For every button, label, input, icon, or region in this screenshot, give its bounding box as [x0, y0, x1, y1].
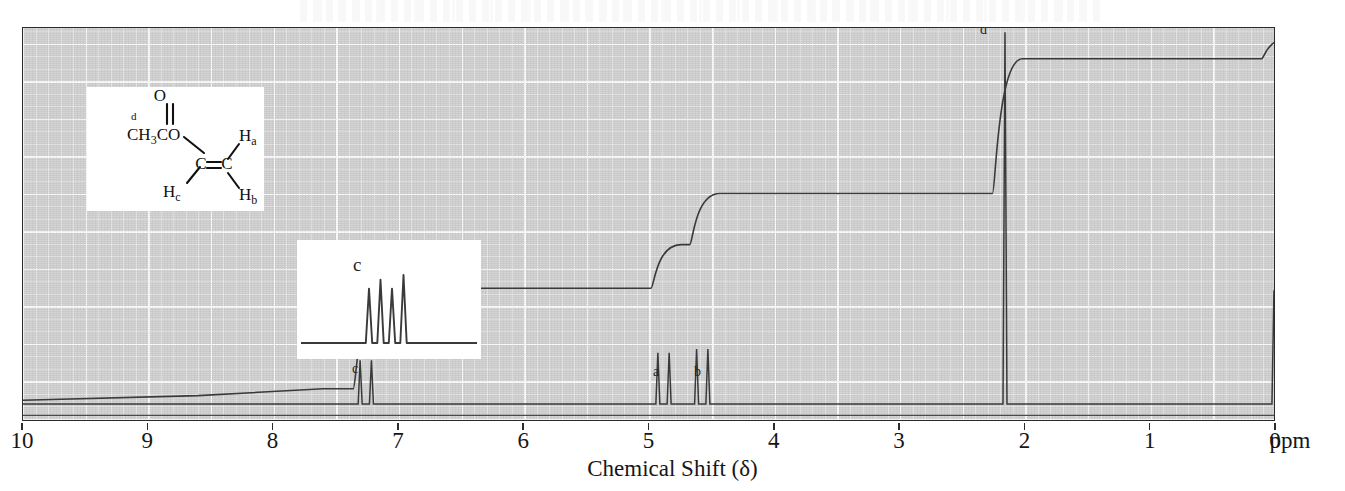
atom-hydrogen-c: Hc	[163, 182, 181, 204]
axis-tick-label-4: 4	[768, 429, 780, 452]
axis-tick-label-3: 3	[893, 429, 905, 452]
peak-label-d: d	[980, 27, 987, 37]
axis-tick-label-6: 6	[517, 429, 529, 452]
structure-inset: O CH3CO d C C Ha Hb Hc	[87, 87, 264, 211]
atom-alkene-carbon-2: C	[221, 154, 232, 173]
nmr-spectrum-plot: c a b d O CH3CO d C C Ha Hb	[22, 27, 1275, 421]
axis-tick-label-7: 7	[392, 429, 404, 452]
label-methyl-d: d	[131, 110, 137, 122]
axis-tick-label-8: 8	[267, 429, 279, 452]
axis-tick-label-2: 2	[1019, 429, 1031, 452]
axis-tick-label-1: 1	[1144, 429, 1156, 452]
axis-tick-label-9: 9	[142, 429, 154, 452]
axis-tick-label-10: 10	[11, 429, 34, 452]
atom-hydrogen-a: Ha	[239, 126, 257, 148]
axis-unit-label: ppm	[1270, 429, 1311, 452]
atom-carbonyl-oxygen: O	[154, 87, 166, 105]
peak-label-a: a	[653, 365, 659, 379]
axis-tick-label-5: 5	[643, 429, 655, 452]
multiplet-expansion-inset: c	[297, 240, 481, 359]
x-axis-title: Chemical Shift (δ)	[0, 456, 1345, 482]
expansion-label-c: c	[353, 254, 361, 276]
atom-methyl-carbonyl: CH3CO	[127, 125, 180, 147]
peak-label-b: b	[694, 365, 701, 379]
expansion-trace	[301, 275, 477, 343]
scan-bleed-artifact	[300, 0, 1100, 22]
atom-alkene-carbon-1: C	[195, 154, 206, 173]
x-axis: 109876543210	[0, 421, 1345, 455]
peak-label-c: c	[352, 362, 358, 376]
atom-hydrogen-b: Hb	[239, 185, 257, 207]
